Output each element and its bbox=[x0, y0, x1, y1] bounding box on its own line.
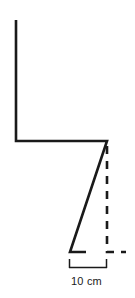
dimension-label: 10 cm bbox=[0, 275, 135, 288]
vertical-reference-line bbox=[107, 146, 126, 252]
diagram-canvas: 10 cm bbox=[0, 0, 135, 298]
width-dimension-bracket bbox=[69, 259, 107, 268]
technical-drawing-svg bbox=[0, 0, 135, 298]
bent-profile-outline bbox=[16, 20, 107, 252]
